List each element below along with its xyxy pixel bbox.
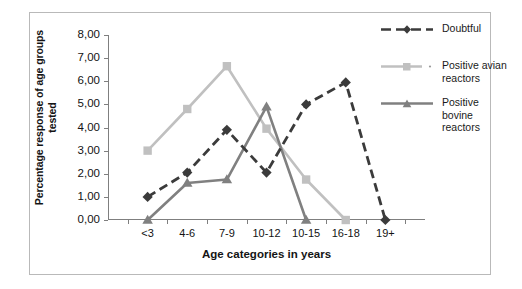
x-tick-label: 19+ — [355, 227, 415, 239]
y-tick-label: 5,00 — [56, 98, 100, 109]
y-tick-label: 8,00 — [56, 29, 100, 40]
legend-key-bovine — [380, 97, 434, 110]
data-point-marker — [262, 124, 270, 132]
y-axis-title: Percentage response of age groups tested — [33, 18, 58, 218]
x-tick-mark — [286, 220, 287, 224]
y-tick-label: 7,00 — [56, 52, 100, 63]
data-point-marker — [302, 175, 310, 183]
y-tick-mark — [104, 197, 108, 198]
data-point-marker — [342, 216, 350, 224]
x-tick-mark — [405, 220, 406, 224]
data-point-marker — [261, 101, 272, 110]
chart-legend: Doubtful Positive avian reactors Positiv… — [380, 22, 510, 145]
x-tick-mark — [167, 220, 168, 224]
y-tick-label: 3,00 — [56, 145, 100, 156]
y-tick-mark — [104, 35, 108, 36]
y-tick-mark — [104, 81, 108, 82]
chart-figure: Percentage response of age groups tested… — [0, 0, 522, 289]
x-tick-mark — [128, 220, 129, 224]
y-tick-mark — [104, 58, 108, 59]
y-tick-mark — [104, 151, 108, 152]
data-point-marker — [183, 105, 191, 113]
series-line-positive-bovine-reactors — [148, 107, 307, 220]
y-tick-label: 6,00 — [56, 75, 100, 86]
legend-label-bovine: Positive bovine reactors — [442, 96, 510, 134]
y-axis-tick-labels: 0,001,002,003,004,005,006,007,008,00 — [56, 0, 100, 289]
y-tick-mark — [104, 104, 108, 105]
data-point-marker — [182, 167, 192, 177]
legend-key-doubtful — [380, 23, 434, 36]
plot-area: <34-67-910-1210-1516-1819+ — [108, 35, 425, 220]
x-tick-mark — [207, 220, 208, 224]
legend-item-avian[interactable]: Positive avian reactors — [380, 59, 510, 85]
y-tick-label: 4,00 — [56, 122, 100, 133]
series-layer — [108, 35, 425, 220]
x-tick-mark — [326, 220, 327, 224]
data-point-marker — [301, 99, 311, 109]
y-tick-mark — [104, 174, 108, 175]
y-tick-label: 2,00 — [56, 168, 100, 179]
legend-key-avian — [380, 60, 434, 73]
data-point-marker — [223, 62, 231, 70]
legend-label-doubtful: Doubtful — [442, 22, 510, 35]
data-point-marker — [301, 215, 312, 224]
data-point-marker — [143, 146, 151, 154]
y-tick-label: 0,00 — [56, 214, 100, 225]
y-tick-label: 1,00 — [56, 191, 100, 202]
legend-item-bovine[interactable]: Positive bovine reactors — [380, 96, 510, 134]
x-axis-title: Age categories in years — [108, 248, 425, 260]
x-tick-mark — [247, 220, 248, 224]
legend-label-avian: Positive avian reactors — [442, 59, 510, 84]
y-tick-mark — [104, 220, 108, 221]
y-tick-mark — [104, 128, 108, 129]
x-tick-mark — [366, 220, 367, 224]
legend-item-doubtful[interactable]: Doubtful — [380, 22, 510, 48]
